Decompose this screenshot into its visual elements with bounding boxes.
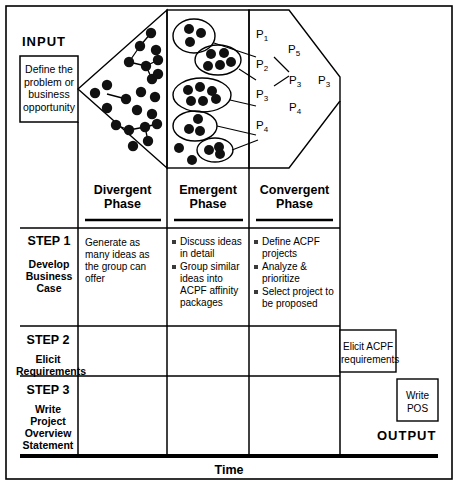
- step-3-title-line-4: Statement: [16, 439, 80, 451]
- phase-divergent-line1: Divergent: [78, 183, 167, 197]
- emergent-cluster-5: [197, 138, 233, 162]
- p1-sub: 1: [264, 34, 268, 43]
- emergent-cluster-1: [173, 19, 215, 53]
- output-label: OUTPUT: [377, 428, 436, 443]
- step-1-title-line-2: Business: [20, 270, 78, 282]
- bullet-square-icon: [254, 265, 258, 269]
- input-line-2: problem or: [20, 76, 78, 89]
- funnel-label-p4: P4: [256, 119, 268, 134]
- p3-base: P: [256, 88, 264, 100]
- emergent-cluster-4: [173, 111, 217, 141]
- step-1-header: STEP 1 Develop Business Case: [20, 234, 78, 294]
- phase-header-emergent: Emergent Phase: [167, 183, 249, 211]
- step-2-title-line-2: Requirements: [16, 365, 80, 377]
- p1-base: P: [256, 28, 264, 40]
- out-p4-base: P: [289, 101, 297, 113]
- list-item: Define ACPF projects: [254, 236, 336, 260]
- phase-emergent-line1: Emergent: [167, 183, 249, 197]
- list-item: Discuss ideas in detail: [172, 236, 245, 260]
- list-item: Select project to be proposed: [254, 286, 336, 310]
- phase-divergent-line2: Phase: [78, 197, 167, 211]
- step-3-header: STEP 3 Write Project Overview Statement: [16, 383, 80, 451]
- p2-base: P: [256, 58, 264, 70]
- p2-sub: 2: [264, 64, 268, 73]
- step-1-emergent-bullet-1: Discuss ideas in detail: [180, 236, 245, 260]
- elicit-acpf-line-2: requirements: [341, 354, 395, 367]
- step-1-emergent-bullet-2: Group similar ideas into ACPF affinity p…: [180, 261, 245, 309]
- funnel-output-p3-right: P3: [318, 74, 330, 89]
- phase-header-convergent: Convergent Phase: [249, 183, 340, 211]
- p4-base: P: [256, 119, 264, 131]
- phase-convergent-line1: Convergent: [249, 183, 340, 197]
- step-1-convergent-bullet-2: Analyze & prioritize: [262, 261, 336, 285]
- funnel-label-p2: P2: [256, 58, 268, 73]
- funnel-label-p5-merged: P5: [288, 43, 300, 58]
- out-p3b-sub: 3: [326, 80, 330, 89]
- step-3-number: STEP 3: [16, 383, 80, 397]
- elicit-acpf-box-text: Elicit ACPF requirements: [341, 341, 395, 366]
- phase-emergent-line2: Phase: [167, 197, 249, 211]
- elicit-acpf-line-1: Elicit ACPF: [341, 341, 395, 354]
- funnel-output-p4: P4: [289, 101, 301, 116]
- funnel-label-p1: P1: [256, 28, 268, 43]
- step-1-convergent-bullet-3: Select project to be proposed: [262, 286, 336, 310]
- step-1-title-line-1: Develop: [20, 258, 78, 270]
- bullet-square-icon: [172, 240, 176, 244]
- step-3-title-line-2: Project: [16, 415, 80, 427]
- step-1-emergent-cell: Discuss ideas in detail Group similar id…: [172, 236, 245, 310]
- emergent-loose-dots: [174, 143, 197, 165]
- time-axis-label: Time: [0, 463, 458, 477]
- out-p3a-sub: 3: [297, 80, 301, 89]
- cluster-leader-lines: [214, 43, 258, 150]
- step-1-title-line-3: Case: [20, 282, 78, 294]
- diagram-canvas: INPUT Define the problem or business opp…: [0, 0, 458, 485]
- bullet-square-icon: [254, 290, 258, 294]
- bullet-square-icon: [254, 240, 258, 244]
- step-1-number: STEP 1: [20, 234, 78, 248]
- input-box-text: Define the problem or business opportuni…: [20, 63, 78, 113]
- merge-connectors: [274, 57, 289, 86]
- emergent-cluster-3: [173, 78, 231, 112]
- step-1-convergent-bullet-1: Define ACPF projects: [262, 236, 336, 260]
- list-item: Analyze & prioritize: [254, 261, 336, 285]
- p5-base: P: [288, 43, 296, 55]
- list-item: Group similar ideas into ACPF affinity p…: [172, 261, 245, 309]
- input-line-1: Define the: [20, 63, 78, 76]
- phase-convergent-line2: Phase: [249, 197, 340, 211]
- write-pos-line-2: POS: [398, 403, 437, 416]
- step-2-header: STEP 2 Elicit Requirements: [16, 333, 80, 377]
- step-2-title-line-1: Elicit: [16, 353, 80, 365]
- p4-sub: 4: [264, 125, 268, 134]
- phase-header-divergent: Divergent Phase: [78, 183, 167, 211]
- out-p3a-base: P: [289, 74, 297, 86]
- funnel-output-p3-left: P3: [289, 74, 301, 89]
- write-pos-box-text: Write POS: [398, 390, 437, 415]
- write-pos-line-1: Write: [398, 390, 437, 403]
- step-1-convergent-cell: Define ACPF projects Analyze & prioritiz…: [254, 236, 336, 311]
- step-3-title-line-3: Overview: [16, 427, 80, 439]
- p3-sub: 3: [264, 94, 268, 103]
- input-line-3: business: [20, 88, 78, 101]
- out-p4-sub: 4: [297, 107, 301, 116]
- input-line-4: opportunity: [20, 101, 78, 114]
- step-3-title-line-1: Write: [16, 403, 80, 415]
- bullet-square-icon: [172, 265, 176, 269]
- step-2-number: STEP 2: [16, 333, 80, 347]
- input-label: INPUT: [22, 34, 66, 49]
- p5-sub: 5: [296, 49, 300, 58]
- out-p3b-base: P: [318, 74, 326, 86]
- funnel-label-p3: P3: [256, 88, 268, 103]
- step-1-divergent-cell: Generate as many ideas as the group can …: [85, 237, 161, 285]
